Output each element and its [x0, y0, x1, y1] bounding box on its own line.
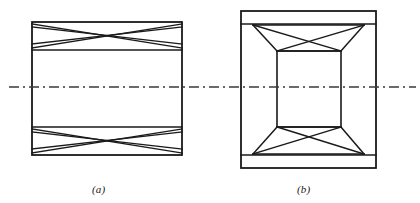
panel-b-top-trapezoid	[253, 25, 364, 51]
panel-b-drawing	[241, 11, 376, 168]
figure-drawing-canvas	[0, 0, 420, 203]
panel-b-bottom-bracing	[253, 127, 364, 154]
brace-line	[253, 127, 341, 154]
panel-b-bottom-trapezoid	[253, 127, 364, 154]
panel-b-inner-rectangle	[277, 51, 341, 127]
brace-line	[277, 25, 364, 51]
technical-figure-container: (a) (b)	[0, 0, 420, 203]
panel-a-bottom-band-bracing	[32, 129, 182, 153]
brace-line	[277, 127, 364, 154]
brace-line	[253, 25, 341, 51]
panel-a-caption: (a)	[92, 183, 105, 195]
panel-a-top-band-bracing	[32, 24, 182, 48]
panel-b-top-bracing	[253, 25, 364, 51]
panel-b-caption: (b)	[297, 183, 310, 195]
panel-a-drawing	[32, 22, 182, 155]
